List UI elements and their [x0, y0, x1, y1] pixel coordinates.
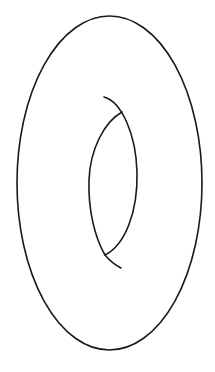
- torus-outer-outline: [17, 16, 202, 350]
- diagram-canvas: [0, 0, 215, 372]
- torus-drawing: [0, 0, 215, 372]
- torus-hole-lower-edge: [89, 112, 122, 255]
